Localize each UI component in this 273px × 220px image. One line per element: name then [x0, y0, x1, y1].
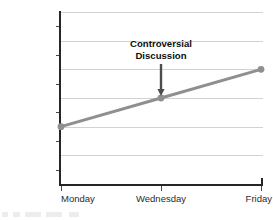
x-axis-tick	[61, 186, 62, 191]
y-axis-line	[59, 11, 61, 186]
gridline	[60, 41, 263, 42]
x-axis-tick	[261, 186, 262, 191]
gridline	[60, 69, 263, 70]
gridline	[60, 98, 263, 99]
x-axis-tick-label: Wednesday	[136, 193, 186, 204]
gridline	[60, 155, 263, 156]
x-axis-tick	[161, 186, 162, 191]
x-axis-end-tick	[261, 178, 263, 186]
gridline	[60, 127, 263, 128]
page-footer-cutoff-text	[2, 212, 98, 217]
plot-area: 0123456789101112	[60, 12, 263, 184]
x-axis-tick-label: Monday	[61, 193, 95, 204]
chart-figure: Number of students making comments or as…	[0, 0, 273, 220]
x-axis-tick-label: Friday	[246, 193, 272, 204]
gridline	[60, 12, 263, 13]
